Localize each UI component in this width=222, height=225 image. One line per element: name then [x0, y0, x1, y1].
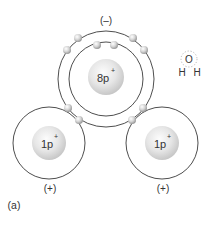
- electron-icon: [129, 34, 137, 42]
- water-molecule-icon: O H H: [178, 51, 200, 78]
- molecule-hydrogen-right-symbol: H: [193, 67, 200, 78]
- hydrogen-left-nucleus-charge: +: [54, 133, 58, 140]
- electron-icon: [63, 46, 71, 54]
- hydrogen-atom-left: 1p + (+): [13, 107, 85, 194]
- electron-icon: [93, 41, 101, 49]
- shared-electron-icon: [139, 104, 147, 112]
- electron-icon: [74, 34, 82, 42]
- oxygen-charge-label: (–): [100, 15, 112, 26]
- molecule-oxygen-symbol: O: [185, 54, 193, 65]
- hydrogen-left-charge-label: (+): [44, 183, 57, 194]
- hydrogen-right-nucleus-charge: +: [167, 133, 171, 140]
- electron-icon: [110, 41, 118, 49]
- hydrogen-right-charge-label: (+): [157, 183, 170, 194]
- oxygen-atom: 8p + (–): [58, 15, 154, 127]
- hydrogen-left-nucleus-label: 1p: [41, 138, 53, 150]
- water-molecule-diagram: 8p + (–) 1p + (+) 1p + (+) O H H: [0, 0, 222, 225]
- shared-electron-icon: [128, 116, 136, 124]
- molecule-hydrogen-left-symbol: H: [178, 67, 185, 78]
- hydrogen-right-nucleus-label: 1p: [154, 138, 166, 150]
- oxygen-nucleus-label: 8p: [97, 72, 109, 84]
- electron-icon: [140, 46, 148, 54]
- panel-label: (a): [8, 199, 21, 211]
- oxygen-nucleus-charge: +: [111, 67, 115, 74]
- shared-electron-icon: [64, 104, 72, 112]
- hydrogen-atom-right: 1p + (+): [126, 107, 198, 194]
- shared-electron-icon: [75, 116, 83, 124]
